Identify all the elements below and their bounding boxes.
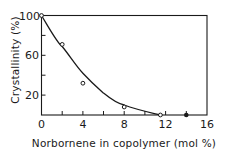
x-tick-label: 12 (159, 118, 173, 131)
x-tick-label: 4 (79, 118, 86, 131)
fitted-curve (42, 16, 161, 116)
y-axis-label: Crystallinity (%) (9, 16, 21, 103)
y-axis-ticks (42, 35, 46, 95)
x-tick-label: 16 (200, 118, 214, 131)
y-tick-label: 100 (19, 10, 40, 23)
data-point (159, 113, 163, 117)
x-tick-labels: 0 4 8 12 16 (38, 118, 214, 131)
x-tick-label: 0 (38, 118, 45, 131)
y-tick-label: 60 (25, 49, 39, 62)
y-tick-label: 20 (25, 89, 39, 102)
data-point (81, 81, 85, 85)
open-circle-markers (40, 14, 163, 117)
filled-data-point (184, 113, 189, 118)
data-point (40, 14, 44, 18)
crystallinity-chart: 0 4 8 12 16 100 60 20 Norbornene in copo… (0, 0, 228, 156)
x-axis-label: Norbornene in copolymer (mol %) (32, 137, 216, 149)
y-tick-labels: 100 60 20 (19, 10, 40, 103)
data-point (60, 43, 64, 47)
x-axis-ticks (62, 111, 186, 115)
data-point (122, 105, 126, 109)
plot-frame (42, 16, 208, 116)
x-tick-label: 8 (121, 118, 128, 131)
